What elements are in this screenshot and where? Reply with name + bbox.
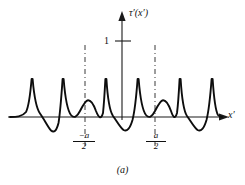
- fraction-denominator: 2: [73, 142, 95, 151]
- y-axis-tick-label-one: 1: [104, 36, 109, 46]
- x-axis-label: x′: [228, 110, 235, 120]
- figure-container: τ′(x′) x′ 1 −a 2 a 2 (a): [0, 0, 245, 185]
- plot-svg: [0, 0, 245, 185]
- x-axis-label-minus-a-over-2: −a 2: [73, 131, 95, 152]
- fraction-numerator: a: [146, 131, 166, 140]
- y-axis: [115, 11, 131, 120]
- tau-prime-curve: [10, 79, 222, 132]
- fraction-numerator: −a: [73, 131, 95, 140]
- fraction-denominator: 2: [146, 142, 166, 151]
- y-axis-label: τ′(x′): [129, 8, 148, 18]
- figure-caption: (a): [0, 164, 245, 175]
- x-axis-label-a-over-2: a 2: [146, 131, 166, 152]
- y-axis-arrowhead: [118, 11, 125, 21]
